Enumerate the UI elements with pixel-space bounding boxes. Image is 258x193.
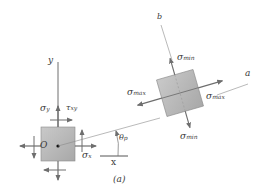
sigma-y-label: σy bbox=[40, 104, 50, 113]
sigma-min-top-label: σmin bbox=[177, 53, 195, 62]
b-axis bbox=[161, 25, 172, 60]
sigma-min-bottom-label: σmin bbox=[180, 132, 198, 141]
sigma-x-label: σx bbox=[82, 151, 92, 160]
sigma-max-right-label: σmax bbox=[206, 92, 225, 101]
y-axis-label: y bbox=[48, 56, 53, 65]
theta-p-label: θp bbox=[119, 134, 128, 142]
sigma-max-left-label: σmax bbox=[127, 88, 146, 97]
tau-xy-label: τxy bbox=[66, 104, 77, 112]
origin-label: O bbox=[40, 141, 47, 150]
figure-caption: (a) bbox=[113, 175, 125, 184]
a-axis-label: a bbox=[245, 69, 250, 78]
b-axis-label: b bbox=[157, 13, 162, 21]
x-axis-label: x bbox=[111, 158, 116, 167]
